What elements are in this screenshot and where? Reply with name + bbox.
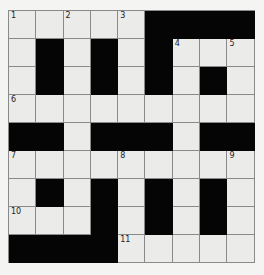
crossword-cell[interactable]: [64, 179, 91, 207]
crossword-cell[interactable]: 3: [118, 11, 145, 39]
crossword-cell[interactable]: 11: [118, 235, 145, 263]
clue-number: 11: [120, 236, 130, 244]
black-cell: [36, 123, 63, 151]
black-cell: [145, 207, 172, 235]
black-cell: [36, 67, 63, 95]
crossword-cell[interactable]: [118, 207, 145, 235]
black-cell: [200, 123, 227, 151]
crossword-grid: 1234567891011: [8, 10, 255, 263]
crossword-cell[interactable]: [227, 207, 254, 235]
crossword-cell[interactable]: [145, 95, 172, 123]
black-cell: [91, 123, 118, 151]
black-cell: [227, 11, 254, 39]
crossword-cell[interactable]: [91, 11, 118, 39]
black-cell: [91, 39, 118, 67]
crossword-cell[interactable]: [227, 235, 254, 263]
clue-number: 8: [120, 152, 125, 160]
crossword-cell[interactable]: [173, 207, 200, 235]
crossword-cell[interactable]: [145, 235, 172, 263]
black-cell: [91, 207, 118, 235]
crossword-cell[interactable]: [9, 67, 36, 95]
black-cell: [200, 179, 227, 207]
black-cell: [36, 179, 63, 207]
clue-number: 6: [11, 96, 16, 104]
clue-number: 7: [11, 152, 16, 160]
crossword-cell[interactable]: [64, 67, 91, 95]
crossword-cell[interactable]: 1: [9, 11, 36, 39]
crossword-cell[interactable]: [173, 95, 200, 123]
clue-number: 9: [229, 152, 234, 160]
black-cell: [173, 11, 200, 39]
crossword-cell[interactable]: [145, 151, 172, 179]
black-cell: [9, 235, 36, 263]
clue-number: 4: [175, 40, 180, 48]
black-cell: [200, 67, 227, 95]
black-cell: [145, 123, 172, 151]
crossword-cell[interactable]: [200, 95, 227, 123]
crossword-cell[interactable]: [200, 39, 227, 67]
crossword-cell[interactable]: 2: [64, 11, 91, 39]
crossword-cell[interactable]: [118, 179, 145, 207]
clue-number: 3: [120, 12, 125, 20]
black-cell: [36, 235, 63, 263]
crossword-cell[interactable]: [91, 95, 118, 123]
black-cell: [200, 11, 227, 39]
crossword-cell[interactable]: [36, 151, 63, 179]
crossword-cell[interactable]: [173, 67, 200, 95]
black-cell: [91, 179, 118, 207]
crossword-cell[interactable]: [64, 151, 91, 179]
crossword-cell[interactable]: 7: [9, 151, 36, 179]
black-cell: [200, 207, 227, 235]
crossword-cell[interactable]: [200, 235, 227, 263]
crossword-cell[interactable]: [173, 235, 200, 263]
crossword-cell[interactable]: [36, 207, 63, 235]
black-cell: [9, 123, 36, 151]
crossword-cell[interactable]: [227, 95, 254, 123]
crossword-cell[interactable]: [64, 123, 91, 151]
crossword-cell[interactable]: 4: [173, 39, 200, 67]
crossword-cell[interactable]: [227, 67, 254, 95]
crossword-cell[interactable]: [118, 67, 145, 95]
crossword-cell[interactable]: [118, 39, 145, 67]
crossword-cell[interactable]: 6: [9, 95, 36, 123]
crossword-cell[interactable]: 9: [227, 151, 254, 179]
black-cell: [91, 235, 118, 263]
clue-number: 5: [229, 40, 234, 48]
black-cell: [64, 235, 91, 263]
crossword-cell[interactable]: [64, 39, 91, 67]
black-cell: [145, 179, 172, 207]
crossword-cell[interactable]: [9, 39, 36, 67]
black-cell: [227, 123, 254, 151]
crossword-cell[interactable]: [36, 11, 63, 39]
crossword-cell[interactable]: [36, 95, 63, 123]
black-cell: [145, 67, 172, 95]
crossword-cell[interactable]: [173, 151, 200, 179]
crossword-cell[interactable]: [173, 179, 200, 207]
black-cell: [36, 39, 63, 67]
black-cell: [145, 39, 172, 67]
crossword-cell[interactable]: 10: [9, 207, 36, 235]
crossword-cell[interactable]: [118, 95, 145, 123]
crossword-cell[interactable]: [173, 123, 200, 151]
black-cell: [145, 11, 172, 39]
clue-number: 10: [11, 208, 21, 216]
crossword-cell[interactable]: [9, 179, 36, 207]
black-cell: [91, 67, 118, 95]
clue-number: 1: [11, 12, 16, 20]
crossword-cell[interactable]: [91, 151, 118, 179]
clue-number: 2: [66, 12, 71, 20]
black-cell: [118, 123, 145, 151]
crossword-cell[interactable]: [64, 207, 91, 235]
crossword-cell[interactable]: [64, 95, 91, 123]
crossword-cell[interactable]: 8: [118, 151, 145, 179]
crossword-cell[interactable]: [227, 179, 254, 207]
crossword-cell[interactable]: 5: [227, 39, 254, 67]
crossword-cell[interactable]: [200, 151, 227, 179]
